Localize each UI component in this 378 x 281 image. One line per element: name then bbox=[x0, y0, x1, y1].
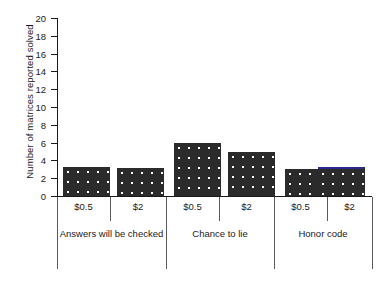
bar-chance-to-lie-2 bbox=[228, 152, 275, 196]
bar-answers-will-be-checked-2 bbox=[117, 168, 164, 196]
x-axis-inner-separator-0 bbox=[110, 197, 111, 221]
x-tick-label-1-0: $0.5 bbox=[166, 201, 219, 212]
x-tick-label-2-1: $2 bbox=[327, 201, 372, 212]
group-label-0: Answers will be checked bbox=[57, 228, 166, 240]
x-axis-group-separator-1 bbox=[166, 197, 167, 269]
x-tick-label-0-1: $2 bbox=[110, 201, 166, 212]
x-axis-inner-separator-1 bbox=[219, 197, 220, 221]
bar-chart: Number of matrices reported solved 20181… bbox=[0, 0, 378, 281]
bar-honor-code-2 bbox=[318, 167, 365, 196]
x-tick-label-1-1: $2 bbox=[219, 201, 274, 212]
x-tick-label-0-0: $0.5 bbox=[57, 201, 110, 212]
group-label-2: Honor code bbox=[274, 228, 372, 240]
x-axis-group-separator-0 bbox=[57, 197, 58, 269]
bar-chance-to-lie-05 bbox=[174, 143, 221, 196]
x-axis-inner-separator-2 bbox=[327, 197, 328, 221]
x-tick-label-2-0: $0.5 bbox=[274, 201, 327, 212]
bar-answers-will-be-checked-05 bbox=[63, 167, 110, 196]
group-label-1: Chance to lie bbox=[166, 228, 274, 240]
x-axis-group-separator-2 bbox=[274, 197, 275, 269]
x-axis-group-separator-3 bbox=[372, 197, 373, 269]
